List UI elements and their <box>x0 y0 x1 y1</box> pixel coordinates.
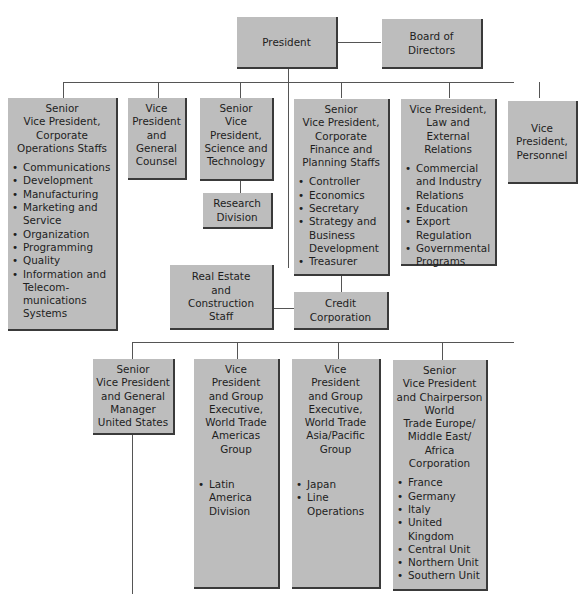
node-title: Vice President and Group Executive, Worl… <box>197 363 275 456</box>
node-title: Research Division <box>206 197 268 224</box>
list-item: Organization <box>11 228 113 241</box>
node-title: Credit Corporation <box>297 297 384 324</box>
node-item-list: Communications Development Manufacturing… <box>11 161 113 321</box>
connector-president-down <box>288 68 289 268</box>
node-item-list: France Germany Italy United Kingdom Cent… <box>396 476 483 582</box>
list-item: Economics <box>297 189 385 202</box>
node-president: President <box>237 17 338 69</box>
list-item: Central Unit <box>396 543 483 556</box>
node-svp-finance-planning: Senior Vice President, Corporate Finance… <box>294 99 390 276</box>
connector-to-vp-asia-pacific <box>338 342 339 360</box>
node-credit-corporation: Credit Corporation <box>294 292 389 330</box>
node-title: Senior Vice President, Corporate Operati… <box>11 102 113 155</box>
list-item: Japan <box>295 478 376 491</box>
node-svp-gm-united-states: Senior Vice President and General Manage… <box>93 359 175 435</box>
node-title: Senior Vice President, Science and Techn… <box>203 102 269 168</box>
node-vp-general-counsel: Vice President and General Counsel <box>128 98 187 180</box>
connector-top-row-bus <box>63 82 514 83</box>
list-item: United Kingdom <box>396 516 483 543</box>
node-title: Vice President and Group Executive, Worl… <box>295 363 376 456</box>
list-item: Commercial and Industry Relations <box>404 162 492 202</box>
list-item: Education <box>404 202 492 215</box>
node-title: Real Estate and Construction Staff <box>173 270 269 323</box>
node-vp-law-external-relations: Vice President, Law and External Relatio… <box>401 99 497 266</box>
connector-realestate-credit <box>274 308 294 309</box>
list-item: Communications <box>11 161 113 174</box>
node-title: Senior Vice President and General Manage… <box>96 363 170 429</box>
connector-to-vp-counsel <box>158 82 159 98</box>
list-item: Italy <box>396 503 483 516</box>
node-item-list: Commercial and Industry Relations Educat… <box>404 162 492 268</box>
org-chart: President Board of Directors Senior Vice… <box>0 0 583 607</box>
node-title: Board of Directors <box>385 30 478 57</box>
node-item-list: Controller Economics Secretary Strategy … <box>297 175 385 268</box>
list-item: Germany <box>396 490 483 503</box>
list-item: France <box>396 476 483 489</box>
node-research-division: Research Division <box>203 193 273 229</box>
list-item: Export Regulation <box>404 215 492 242</box>
list-item: Marketing and Service <box>11 201 113 228</box>
node-vp-world-trade-asia-pacific: Vice President and Group Executive, Worl… <box>292 359 381 589</box>
node-title: Vice President and General Counsel <box>131 102 182 168</box>
connector-to-svp-science <box>240 82 241 98</box>
node-item-list: Japan Line Operations <box>295 478 376 518</box>
connector-to-vp-personnel <box>539 82 540 98</box>
node-real-estate-construction: Real Estate and Construction Staff <box>170 265 274 330</box>
list-item: Manufacturing <box>11 188 113 201</box>
connector-to-svp-emea <box>442 342 443 360</box>
connector-finance-credit <box>341 276 342 292</box>
list-item: Latin America Division <box>197 478 275 518</box>
node-vp-personnel: Vice President, Personnel <box>508 101 578 184</box>
list-item: Information and Telecom-munications Syst… <box>11 268 113 321</box>
connector-science-research <box>240 181 241 193</box>
list-item: Strategy and Business Development <box>297 215 385 255</box>
list-item: Programming <box>11 241 113 254</box>
list-item: Controller <box>297 175 385 188</box>
list-item: Secretary <box>297 202 385 215</box>
node-svp-corporate-operations: Senior Vice President, Corporate Operati… <box>8 98 118 331</box>
list-item: Line Operations <box>295 491 376 518</box>
node-vp-world-trade-americas: Vice President and Group Executive, Worl… <box>194 359 280 589</box>
node-title: Senior Vice President and Chairperson Wo… <box>396 364 483 470</box>
connector-to-svp-gm-us <box>132 342 133 360</box>
connector-to-svp-finance <box>341 82 342 98</box>
node-title: Vice President, Law and External Relatio… <box>404 103 492 156</box>
node-title: President <box>240 36 333 49</box>
node-svp-world-trade-emea: Senior Vice President and Chairperson Wo… <box>393 360 488 591</box>
node-svp-science-technology: Senior Vice President, Science and Techn… <box>200 98 274 181</box>
connector-us-down <box>132 434 133 594</box>
list-item: Quality <box>11 254 113 267</box>
node-title: Senior Vice President, Corporate Finance… <box>297 103 385 169</box>
list-item: Northern Unit <box>396 556 483 569</box>
list-item: Southern Unit <box>396 569 483 582</box>
node-title: Vice President, Personnel <box>511 122 573 162</box>
connector-to-svp-corp-ops <box>63 82 64 98</box>
connector-to-vp-americas <box>237 342 238 360</box>
connector-to-vp-law <box>449 82 450 98</box>
connector-bottom-row-bus <box>132 342 514 343</box>
list-item: Treasurer <box>297 255 385 268</box>
node-board-of-directors: Board of Directors <box>382 19 483 69</box>
connector-president-board <box>336 42 381 43</box>
node-item-list: Latin America Division <box>197 478 275 518</box>
list-item: Development <box>11 174 113 187</box>
list-item: Governmental Programs <box>404 242 492 269</box>
